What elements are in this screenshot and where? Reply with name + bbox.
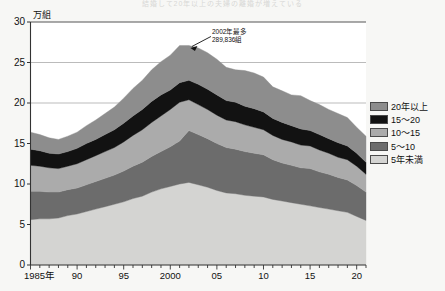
legend-item-4[interactable]: 5年未満 <box>370 153 444 166</box>
legend-swatch-icon <box>370 128 388 137</box>
legend-swatch-icon <box>370 102 388 111</box>
x-tick-1990: 90 <box>55 271 99 281</box>
y-tick-5: 5 <box>3 220 25 230</box>
y-tick-25: 25 <box>3 58 25 68</box>
legend-swatch-icon <box>370 142 388 151</box>
x-tick-2005: 05 <box>195 271 239 281</box>
x-tick-1995: 95 <box>102 271 146 281</box>
legend-item-3[interactable]: 5～10 <box>370 140 444 153</box>
peak-annotation-line2: 289,836組 <box>212 36 247 44</box>
y-tick-0: 0 <box>3 260 25 270</box>
y-tick-15: 15 <box>3 139 25 149</box>
x-tick-2020: 20 <box>335 271 379 281</box>
legend-item-2[interactable]: 10～15 <box>370 126 444 139</box>
x-tick-2015: 15 <box>288 271 332 281</box>
legend-label: 20年以上 <box>391 100 428 113</box>
y-tick-30: 30 <box>3 17 25 27</box>
peak-annotation: 2002年最多 289,836組 <box>212 28 247 44</box>
x-tick-2000: 2000 <box>148 271 192 281</box>
legend-swatch-icon <box>370 155 388 164</box>
y-tick-10: 10 <box>3 179 25 189</box>
legend-item-1[interactable]: 15～20 <box>370 113 444 126</box>
legend-swatch-icon <box>370 115 388 124</box>
legend-item-0[interactable]: 20年以上 <box>370 100 444 113</box>
peak-annotation-line1: 2002年最多 <box>212 28 247 35</box>
legend-label: 5年未満 <box>391 153 423 166</box>
chart-legend: 20年以上15～2010～155～105年未満 <box>370 100 444 166</box>
legend-label: 10～15 <box>391 126 420 139</box>
y-tick-20: 20 <box>3 98 25 108</box>
chart-figure: 結婚して20年以上の夫婦の離婚が増えている 万組 051015202530 19… <box>0 0 445 291</box>
legend-label: 5～10 <box>391 140 415 153</box>
legend-label: 15～20 <box>391 113 420 126</box>
x-tick-2010: 10 <box>241 271 285 281</box>
